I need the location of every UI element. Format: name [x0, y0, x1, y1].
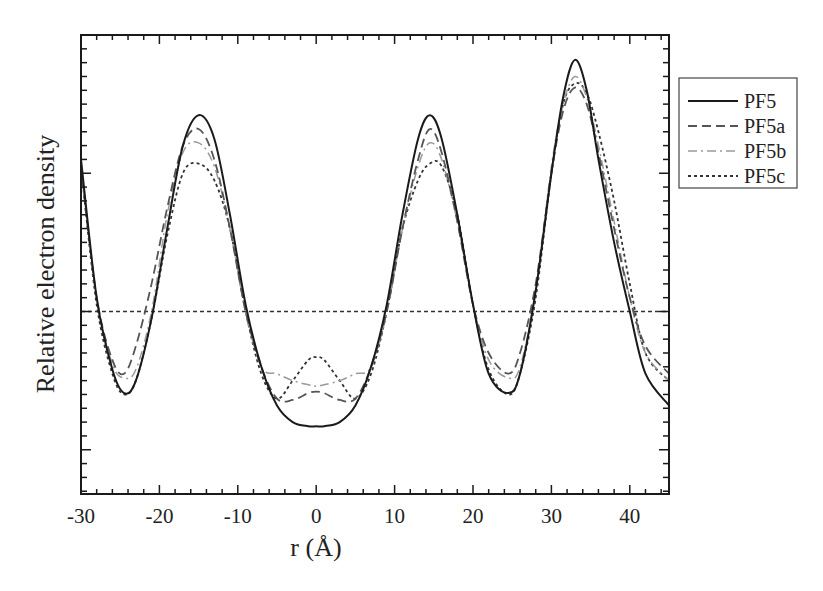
plot-lines — [81, 60, 669, 427]
x-tick-label: 0 — [311, 504, 322, 528]
x-axis-label: r (Å) — [290, 533, 341, 562]
x-tick-label: -30 — [67, 504, 95, 528]
plot-frame — [81, 35, 669, 494]
legend-label-pf5: PF5 — [744, 90, 776, 112]
legend-label-pf5b: PF5b — [744, 140, 786, 162]
x-tick-label: 10 — [384, 504, 405, 528]
legend-label-pf5c: PF5c — [744, 165, 785, 187]
x-tick-labels: -30-20-10010203040 — [67, 504, 640, 528]
chart-canvas: -30-20-10010203040 r (Å) Relative electr… — [0, 0, 823, 591]
legend: PF5PF5aPF5bPF5c — [679, 78, 797, 188]
axis-ticks — [81, 35, 669, 494]
x-tick-label: -20 — [145, 504, 173, 528]
legend-label-pf5a: PF5a — [744, 115, 785, 137]
x-tick-label: 40 — [619, 504, 640, 528]
series-line-pf5 — [81, 60, 669, 427]
series-line-pf5b — [81, 76, 669, 386]
y-axis-label: Relative electron density — [31, 135, 60, 393]
x-tick-label: 30 — [541, 504, 562, 528]
x-tick-label: 20 — [463, 504, 484, 528]
x-tick-label: -10 — [224, 504, 252, 528]
